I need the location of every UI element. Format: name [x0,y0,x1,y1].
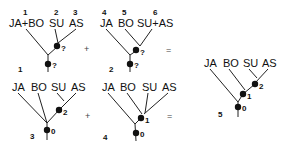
node-label: 0 [242,105,246,113]
node-dot [44,127,50,133]
leaf-label: AS [71,82,86,93]
leaf-label: BO [223,58,239,69]
plus-operator: + [84,45,89,54]
node-label: 1 [145,117,149,125]
node-dot [54,43,60,49]
leaf-number: 1 [23,9,27,17]
plus-operator: + [85,112,90,121]
tree-number: 1 [18,66,22,74]
leaf-number: 4 [102,9,106,17]
node-dot [240,91,246,97]
node-dot [138,115,144,121]
leaf-label: BO [120,82,136,93]
tree-number: 4 [103,134,107,142]
node-dot [252,81,258,87]
node-label: 1 [247,93,251,101]
node-label: ? [134,62,139,70]
tree-number: 3 [30,133,34,141]
node-label: ? [52,62,57,70]
leaf-label: JA [204,58,217,69]
node-label: 2 [259,83,263,91]
node-dot [133,130,139,136]
leaf-label: SU+AS [137,18,173,29]
leaf-label: AS [162,82,177,93]
node-dot [127,61,133,67]
node-label: 2 [63,109,67,117]
leaf-label: JA [12,82,25,93]
equals-operator: = [167,112,172,121]
leaf-number: 5 [122,9,126,17]
tree-number: 2 [109,66,113,74]
leaf-number: 3 [73,9,77,17]
node-dot [45,61,51,67]
leaf-label: JA [100,18,113,29]
leaf-label: SU [142,82,157,93]
node-label: 0 [140,131,144,139]
leaf-label: JA [102,82,115,93]
leaf-number: 6 [153,9,157,17]
leaf-label: JA+BO [9,18,44,29]
node-label: ? [140,49,145,57]
node-label: ? [61,45,66,53]
leaf-label: AS [262,58,277,69]
tree-number: 5 [218,111,222,119]
node-dot [133,47,139,53]
leaf-label: SU [51,82,66,93]
leaf-label: AS [69,18,84,29]
leaf-label: BO [31,82,47,93]
leaf-label: BO [118,18,134,29]
leaf-number: 2 [54,9,58,17]
node-dot [56,107,62,113]
node-dot [235,104,241,110]
equals-operator: = [166,46,171,55]
leaf-label: SU [49,18,64,29]
node-label: 0 [51,128,55,136]
leaf-label: SU [243,58,258,69]
